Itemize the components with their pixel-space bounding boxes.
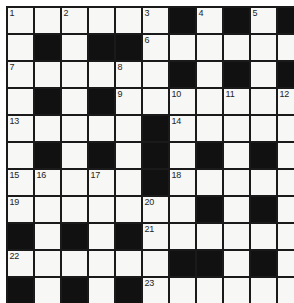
grid-cell[interactable] (35, 197, 60, 222)
grid-cell[interactable] (278, 116, 294, 141)
grid-cell[interactable] (197, 224, 222, 249)
grid-cell[interactable]: 18 (170, 170, 195, 195)
grid-cell[interactable] (143, 251, 168, 276)
grid-cell[interactable] (62, 116, 87, 141)
grid-cell[interactable]: 7 (8, 62, 33, 87)
grid-cell[interactable] (278, 251, 294, 276)
grid-cell[interactable] (278, 143, 294, 168)
grid-cell[interactable] (89, 197, 114, 222)
grid-cell[interactable] (197, 278, 222, 303)
grid-cell[interactable]: 20 (143, 197, 168, 222)
cell-number: 8 (118, 62, 123, 73)
grid-cell[interactable] (224, 35, 249, 60)
cell-number: 22 (10, 251, 20, 262)
grid-cell[interactable]: 21 (143, 224, 168, 249)
grid-cell[interactable] (251, 35, 276, 60)
grid-cell[interactable] (116, 170, 141, 195)
grid-cell[interactable]: 1 (8, 8, 33, 33)
grid-block (89, 89, 114, 114)
grid-cell[interactable]: 4 (197, 8, 222, 33)
grid-cell[interactable]: 11 (224, 89, 249, 114)
cell-number: 1 (10, 8, 15, 19)
grid-cell[interactable] (224, 197, 249, 222)
grid-cell[interactable]: 3 (143, 8, 168, 33)
grid-cell[interactable] (89, 8, 114, 33)
grid-cell[interactable]: 6 (143, 35, 168, 60)
grid-cell[interactable]: 5 (251, 8, 276, 33)
grid-cell[interactable] (278, 278, 294, 303)
grid-cell[interactable] (278, 224, 294, 249)
grid-cell[interactable] (224, 143, 249, 168)
grid-cell[interactable] (35, 251, 60, 276)
grid-cell[interactable] (224, 251, 249, 276)
cell-number: 17 (91, 170, 101, 181)
grid-cell[interactable] (89, 62, 114, 87)
grid-cell[interactable]: 10 (170, 89, 195, 114)
grid-cell[interactable] (35, 62, 60, 87)
grid-cell[interactable] (224, 224, 249, 249)
grid-cell[interactable]: 8 (116, 62, 141, 87)
grid-cell[interactable] (197, 116, 222, 141)
grid-cell[interactable] (251, 116, 276, 141)
grid-cell[interactable] (197, 89, 222, 114)
grid-cell[interactable] (35, 224, 60, 249)
grid-cell[interactable] (116, 116, 141, 141)
grid-cell[interactable] (251, 62, 276, 87)
grid-cell[interactable] (251, 278, 276, 303)
grid-cell[interactable] (170, 224, 195, 249)
grid-cell[interactable] (197, 35, 222, 60)
grid-cell[interactable] (35, 278, 60, 303)
grid-cell[interactable] (278, 170, 294, 195)
grid-cell[interactable] (89, 116, 114, 141)
grid-cell[interactable] (170, 143, 195, 168)
grid-cell[interactable] (143, 89, 168, 114)
grid-cell[interactable] (251, 224, 276, 249)
grid-cell[interactable] (62, 62, 87, 87)
grid-cell[interactable] (197, 62, 222, 87)
grid-cell[interactable] (62, 170, 87, 195)
grid-cell[interactable] (8, 35, 33, 60)
grid-cell[interactable]: 13 (8, 116, 33, 141)
grid-cell[interactable] (278, 197, 294, 222)
grid-cell[interactable]: 12 (278, 89, 294, 114)
grid-cell[interactable] (251, 170, 276, 195)
grid-cell[interactable] (35, 116, 60, 141)
grid-cell[interactable] (62, 35, 87, 60)
grid-cell[interactable] (170, 278, 195, 303)
grid-cell[interactable] (116, 8, 141, 33)
grid-block (116, 224, 141, 249)
grid-cell[interactable] (170, 197, 195, 222)
grid-cell[interactable] (62, 89, 87, 114)
grid-cell[interactable]: 16 (35, 170, 60, 195)
grid-cell[interactable] (116, 143, 141, 168)
grid-block (116, 35, 141, 60)
grid-cell[interactable] (143, 62, 168, 87)
grid-cell[interactable] (170, 35, 195, 60)
grid-cell[interactable] (89, 224, 114, 249)
grid-cell[interactable]: 23 (143, 278, 168, 303)
crossword-grid[interactable]: 1234567891011121314151617181920212223 (6, 6, 294, 303)
grid-cell[interactable]: 14 (170, 116, 195, 141)
grid-cell[interactable] (224, 170, 249, 195)
grid-cell[interactable] (8, 143, 33, 168)
grid-cell[interactable] (197, 170, 222, 195)
grid-cell[interactable] (62, 143, 87, 168)
grid-cell[interactable]: 9 (116, 89, 141, 114)
grid-cell[interactable] (251, 89, 276, 114)
grid-cell[interactable]: 17 (89, 170, 114, 195)
grid-cell[interactable]: 19 (8, 197, 33, 222)
grid-cell[interactable] (224, 116, 249, 141)
grid-cell[interactable] (35, 8, 60, 33)
grid-cell[interactable] (62, 251, 87, 276)
grid-cell[interactable]: 2 (62, 8, 87, 33)
grid-cell[interactable] (89, 251, 114, 276)
grid-cell[interactable]: 22 (8, 251, 33, 276)
grid-cell[interactable] (116, 197, 141, 222)
grid-cell[interactable] (8, 89, 33, 114)
grid-cell[interactable] (116, 251, 141, 276)
grid-cell[interactable]: 15 (8, 170, 33, 195)
grid-cell[interactable] (278, 35, 294, 60)
grid-cell[interactable] (224, 278, 249, 303)
grid-cell[interactable] (89, 278, 114, 303)
grid-cell[interactable] (62, 197, 87, 222)
